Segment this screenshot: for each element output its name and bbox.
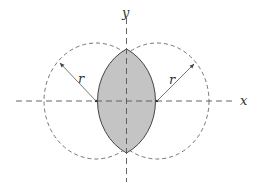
y-axis-label: y (121, 5, 130, 20)
lens-diagram: r r y x (0, 0, 259, 188)
right-radius-label: r (169, 72, 176, 87)
right-radius-arrow (157, 64, 194, 101)
left-radius-label: r (78, 71, 85, 86)
x-axis-label: x (240, 93, 248, 108)
